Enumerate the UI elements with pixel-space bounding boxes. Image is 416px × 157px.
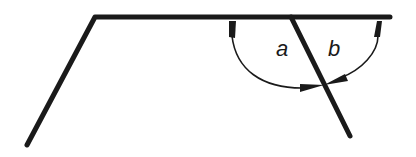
angle-a-arc	[232, 36, 302, 88]
angle-a-label: a	[276, 36, 288, 61]
angle-b-arrowhead-top	[374, 21, 382, 37]
angle-b-arrowhead-end	[324, 74, 348, 85]
angle-a-arrowhead-end	[300, 84, 324, 92]
angle-diagram: a b	[0, 0, 416, 157]
angle-b-label: b	[328, 36, 340, 61]
angle-a-arrowhead-top	[229, 21, 236, 38]
angle-b-arc	[340, 36, 378, 78]
